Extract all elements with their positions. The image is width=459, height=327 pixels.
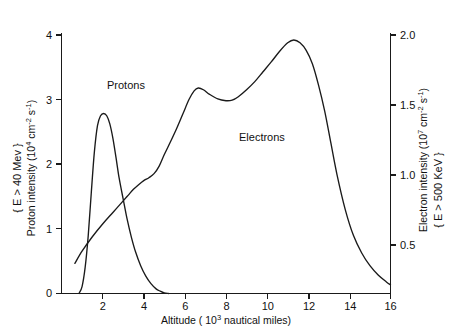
x-tick-label-6: 6 [182, 300, 188, 312]
left-tick-label-4: 4 [46, 29, 52, 41]
left-axis-condition: { E > 40 Mev } [11, 143, 23, 213]
radiation-belt-intensity-chart: 0 1 2 3 4 0.5 1.0 1.5 2.0 2 4 6 8 10 12 … [0, 0, 459, 327]
right-axis-title-mid2: s [417, 98, 429, 106]
right-axis-title-head: Electron intensity (10 [417, 134, 429, 232]
svg-text:Altitude ( 103 nautical miles): Altitude ( 103 nautical miles) [161, 313, 291, 326]
x-tick-label-8: 8 [223, 300, 229, 312]
right-axis-condition: { E > 500 KeV } [432, 152, 444, 228]
left-axis-title-exp2: -2 [24, 118, 33, 125]
electrons-series-label: Electrons [239, 131, 285, 143]
right-axis-title-mid: cm [417, 113, 429, 130]
x-tick-label-14: 14 [344, 300, 356, 312]
x-tick-label-12: 12 [303, 300, 315, 312]
right-axis-title-tail: ) [417, 88, 429, 92]
left-tick-label-1: 1 [46, 223, 52, 235]
left-tick-label-0: 0 [46, 287, 52, 299]
left-tick-label-2: 2 [46, 158, 52, 170]
left-axis-title-head: Proton intensity (10 [25, 146, 37, 237]
x-tick-label-4: 4 [141, 300, 147, 312]
x-axis-ticks: 2 4 6 8 10 12 14 16 [100, 294, 397, 313]
plot-axes [62, 33, 391, 294]
left-axis-title-mid2: s [25, 110, 37, 118]
left-axis-title-mid: cm [25, 124, 37, 141]
right-axis-title-exp3: -1 [416, 91, 425, 98]
left-tick-label-3: 3 [46, 94, 52, 106]
right-tick-label-1: 1.0 [400, 169, 415, 181]
left-axis-ticks: 0 1 2 3 4 [46, 29, 62, 299]
left-axis-title-exp3: -1 [24, 103, 33, 110]
x-tick-label-10: 10 [262, 300, 274, 312]
right-axis-title-exp2: -2 [416, 106, 425, 113]
x-tick-label-2: 2 [100, 300, 106, 312]
protons-series-label: Protons [107, 79, 145, 91]
x-axis-title-tail: nautical miles) [221, 314, 291, 326]
svg-text:Proton intensity (104 cm-2 s-1: Proton intensity (104 cm-2 s-1) [24, 100, 37, 237]
right-axis-ticks: 0.5 1.0 1.5 2.0 [391, 29, 416, 251]
x-axis-title-head: Altitude ( 10 [161, 314, 217, 326]
right-tick-label-0: 0.5 [400, 239, 415, 251]
left-axis-condition-text: { E > 40 Mev } [11, 143, 23, 213]
right-axis-condition-text: { E > 500 KeV } [432, 152, 444, 228]
electron-intensity-curve [75, 40, 391, 285]
left-axis-title: Proton intensity (104 cm-2 s-1) [24, 100, 37, 237]
right-tick-label-2: 1.5 [400, 99, 415, 111]
right-tick-label-3: 2.0 [400, 29, 415, 41]
right-axis-title: Electron intensity (107 cm-2 s-1) [416, 88, 429, 232]
left-axis-title-tail: ) [25, 100, 37, 104]
x-tick-label-16: 16 [384, 300, 396, 312]
svg-text:Electron intensity (107 cm-2 s: Electron intensity (107 cm-2 s-1) [416, 88, 429, 232]
x-axis-title: Altitude ( 103 nautical miles) [161, 313, 291, 326]
proton-intensity-curve [79, 113, 168, 293]
data-curves [75, 40, 391, 294]
